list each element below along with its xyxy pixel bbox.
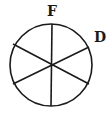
label-f: F — [47, 4, 57, 18]
label-d: D — [94, 30, 106, 44]
